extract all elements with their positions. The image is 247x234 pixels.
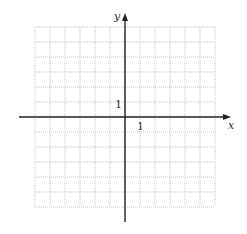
y-unit-tick-label: 1 xyxy=(115,98,122,111)
y-axis-label: y xyxy=(113,10,121,23)
coordinate-plane: x y 1 1 xyxy=(0,0,247,234)
x-unit-tick-label: 1 xyxy=(137,120,144,133)
y-axis-arrow-icon xyxy=(122,13,128,21)
x-axis-label: x xyxy=(228,119,235,132)
